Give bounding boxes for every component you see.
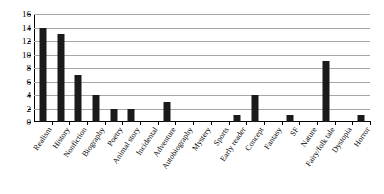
x-axis-tick-label: Horror — [353, 126, 372, 149]
y-axis-tick-mark — [28, 68, 31, 69]
y-axis-tick-mark — [28, 109, 31, 110]
y-axis-tick-mark — [28, 122, 31, 123]
y-axis-tick-mark — [28, 95, 31, 96]
y-axis-labels: 0246810121416 — [0, 14, 31, 122]
y-axis-tick-mark — [28, 41, 31, 42]
x-axis-labels: RealismHistoryNonfictionBiographyPoetryA… — [34, 126, 370, 194]
y-axis-tick-mark — [28, 14, 31, 15]
x-axis-tick-label: SF — [289, 126, 301, 138]
y-axis-tick-mark — [28, 55, 31, 56]
y-axis-tick-mark — [28, 82, 31, 83]
x-axis-tick-label: Realism — [32, 126, 53, 152]
bar — [39, 28, 46, 123]
y-axis-tick-mark — [28, 28, 31, 29]
bar-chart: 0246810121416 RealismHistoryNonfictionBi… — [0, 0, 384, 194]
